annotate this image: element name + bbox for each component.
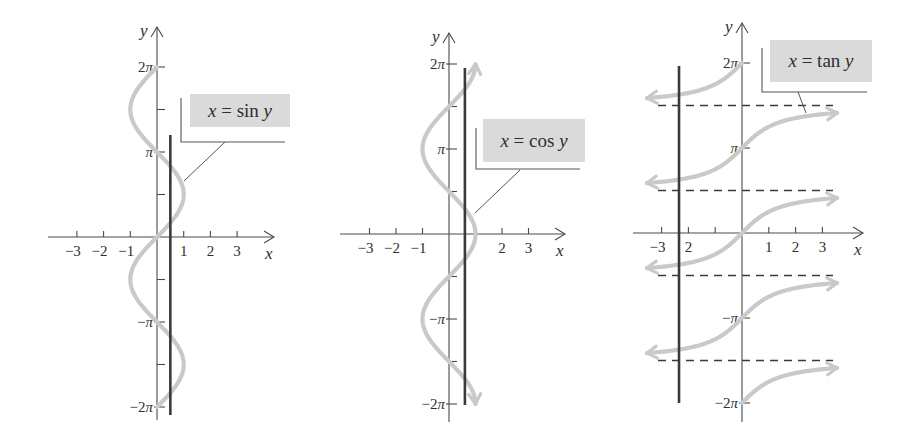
y-tick-label: −2π [422, 396, 446, 412]
equation-label: x = tan y [787, 50, 854, 71]
chart-tan: xy−32123−2π−ππ2πx = tan y [633, 17, 872, 422]
label-leader-line [798, 92, 806, 113]
x-tick-label: −1 [118, 243, 134, 259]
y-axis-label: y [430, 27, 440, 46]
x-tick-label: −3 [65, 243, 81, 259]
equation-label: x = cos y [499, 130, 568, 151]
y-tick-label: −2π [130, 399, 154, 415]
x-tick-label: 3 [233, 243, 241, 259]
y-tick-label: −π [429, 311, 445, 327]
x-tick-label: 2 [685, 239, 693, 255]
x-tick-label: 1 [765, 239, 773, 255]
y-axis-label: y [138, 21, 148, 40]
x-tick-label: 2 [792, 239, 800, 255]
x-axis-label: x [853, 240, 862, 259]
x-tick-label: 1 [180, 243, 188, 259]
label-leader-line [475, 170, 520, 213]
chart-sin: xy−3−2−1123−2π−ππ2πx = sin y [48, 21, 290, 420]
x-tick-label: 3 [819, 239, 827, 255]
x-tick-label: −2 [384, 240, 400, 256]
x-tick-label: 2 [207, 243, 215, 259]
x-tick-label: −3 [358, 240, 374, 256]
y-tick-label: π [437, 141, 445, 157]
x-tick-label: 3 [525, 240, 533, 256]
plots-canvas: xy−3−2−1123−2π−ππ2πx = sin yxy−3−2−123−2… [0, 0, 913, 440]
x-tick-label: 2 [498, 240, 506, 256]
y-tick-label: 2π [430, 56, 446, 72]
y-axis-label: y [723, 17, 733, 36]
equation-label: x = sin y [207, 100, 273, 121]
figure-three-inverse-trig-graphs: xy−3−2−1123−2π−ππ2πx = sin yxy−3−2−123−2… [0, 0, 913, 440]
x-tick-label: −2 [92, 243, 108, 259]
x-axis-label: x [555, 241, 564, 260]
y-tick-label: −2π [715, 395, 739, 411]
chart-cos: xy−3−2−123−2π−ππ2πx = cos y [340, 27, 585, 422]
x-tick-label: −3 [650, 239, 666, 255]
tan-branch [742, 368, 837, 403]
label-leader-line [184, 142, 225, 181]
x-tick-label: −1 [411, 240, 427, 256]
x-axis-label: x [264, 244, 273, 263]
